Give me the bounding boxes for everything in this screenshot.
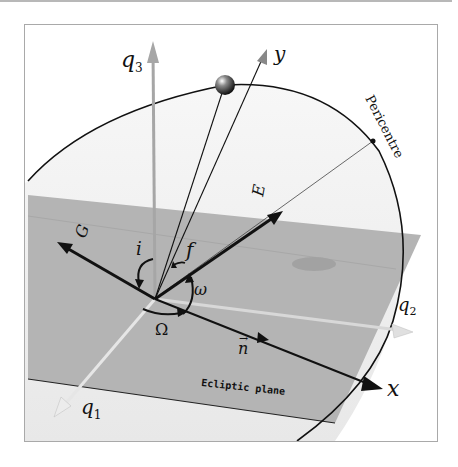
q3-label: q3 xyxy=(121,47,143,75)
top-rule xyxy=(0,0,452,2)
orbit-diagram: q3 y Pericentre E G i f ω Ω n → x q2 q1 … xyxy=(25,25,437,441)
long-node-label: Ω xyxy=(155,320,168,339)
diagram-frame: q3 y Pericentre E G i f ω Ω n → x q2 q1 … xyxy=(24,24,438,442)
inclination-label: i xyxy=(136,238,142,259)
x-label: x xyxy=(387,376,400,401)
q2-arrowhead xyxy=(392,324,413,338)
pericentre-dot xyxy=(371,139,376,144)
q2-label: q2 xyxy=(398,294,417,318)
y-label: y xyxy=(273,42,286,66)
ecliptic-shadow-spot xyxy=(292,257,336,271)
q3-arrowhead xyxy=(147,41,159,63)
arg-pericentre-label: ω xyxy=(194,280,207,299)
q3-axis xyxy=(153,49,155,299)
orbiting-body xyxy=(215,75,235,95)
x-arrowhead xyxy=(361,376,383,391)
y-arrowhead xyxy=(257,49,267,65)
n-vector-overarrow: → xyxy=(239,332,248,345)
